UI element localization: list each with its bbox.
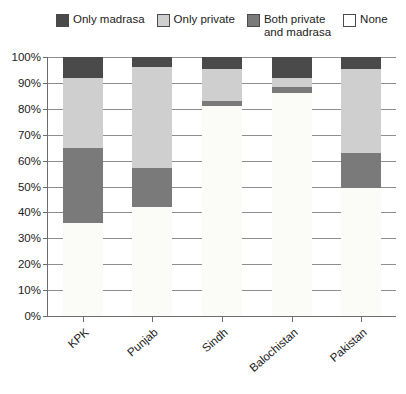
y-axis-tick-label: 50% [18, 181, 41, 193]
x-axis-tick-label-pakistan: Pakistan [328, 326, 369, 364]
bar-column-pakistan[interactable]: Pakistan [326, 57, 396, 316]
x-tick-mark [83, 316, 84, 322]
legend-item-only-private: Only private [157, 13, 235, 27]
y-axis-tick-label: 0% [24, 310, 41, 322]
legend-item-none: None [343, 13, 388, 27]
bar-segment-both-private-and-madrasa[interactable] [132, 168, 172, 207]
bar-segment-only-private[interactable] [63, 78, 103, 148]
legend-label-only-madrasa: Only madrasa [73, 13, 145, 26]
bar-segment-both-private-and-madrasa[interactable] [63, 148, 103, 223]
legend-swatch-none [343, 14, 356, 27]
x-axis-tick-label-punjab: Punjab [125, 326, 160, 359]
bar-segment-none[interactable] [341, 188, 381, 316]
x-tick-mark [222, 316, 223, 322]
y-axis-tick-label: 30% [18, 232, 41, 244]
legend-swatch-only-madrasa [56, 14, 69, 27]
bar-segment-only-madrasa[interactable] [272, 57, 312, 78]
legend-item-both-private-and-madrasa: Both private and madrasa [247, 13, 331, 39]
bar-segment-none[interactable] [202, 106, 242, 316]
y-axis-tick-label: 20% [18, 258, 41, 270]
bar-segment-only-private[interactable] [272, 78, 312, 87]
bar-segment-only-madrasa[interactable] [132, 57, 172, 67]
chart-legend: Only madrasaOnly privateBoth private and… [56, 13, 396, 39]
x-tick-mark [361, 316, 362, 322]
bar-segment-only-madrasa[interactable] [202, 57, 242, 69]
bar-segment-only-madrasa[interactable] [341, 57, 381, 69]
y-axis-tick-label: 10% [18, 284, 41, 296]
bar-segment-only-private[interactable] [132, 67, 172, 168]
y-axis-tick-label: 100% [12, 51, 41, 63]
stacked-bar[interactable] [202, 57, 242, 316]
legend-swatch-only-private [157, 14, 170, 27]
bar-segment-both-private-and-madrasa[interactable] [341, 153, 381, 188]
stacked-bar[interactable] [132, 57, 172, 316]
stacked-bar-chart: Only madrasaOnly privateBoth private and… [0, 0, 406, 394]
stacked-bar[interactable] [272, 57, 312, 316]
legend-label-none: None [360, 13, 388, 26]
bar-column-punjab[interactable]: Punjab [118, 57, 188, 316]
y-axis-tick-label: 90% [18, 77, 41, 89]
y-axis-tick-label: 60% [18, 155, 41, 167]
bar-segment-none[interactable] [63, 223, 103, 316]
plot-area: 0%10%20%30%40%50%60%70%80%90%100% KPKPun… [47, 57, 396, 317]
bar-segment-only-private[interactable] [202, 69, 242, 101]
bar-column-balochistan[interactable]: Balochistan [257, 57, 327, 316]
bar-segment-none[interactable] [132, 207, 172, 316]
bar-segment-only-private[interactable] [341, 69, 381, 153]
y-axis-tick-label: 80% [18, 103, 41, 115]
bar-segment-none[interactable] [272, 93, 312, 316]
x-axis-tick-label-kpk: KPK [65, 326, 90, 350]
bar-segment-only-madrasa[interactable] [63, 57, 103, 78]
x-axis-tick-label-balochistan: Balochistan [247, 326, 300, 374]
bar-column-sindh[interactable]: Sindh [187, 57, 257, 316]
x-tick-mark [292, 316, 293, 322]
legend-label-only-private: Only private [174, 13, 235, 26]
x-tick-mark [152, 316, 153, 322]
y-tick-mark [43, 316, 48, 317]
stacked-bar[interactable] [341, 57, 381, 316]
y-axis-tick-label: 70% [18, 129, 41, 141]
bar-group: KPKPunjabSindhBalochistanPakistan [48, 57, 396, 316]
stacked-bar[interactable] [63, 57, 103, 316]
legend-swatch-both-private-and-madrasa [247, 14, 260, 27]
legend-item-only-madrasa: Only madrasa [56, 13, 145, 27]
bar-column-kpk[interactable]: KPK [48, 57, 118, 316]
x-axis-tick-label-sindh: Sindh [200, 326, 230, 354]
y-axis-tick-label: 40% [18, 206, 41, 218]
legend-label-both-private-and-madrasa: Both private and madrasa [264, 13, 331, 39]
